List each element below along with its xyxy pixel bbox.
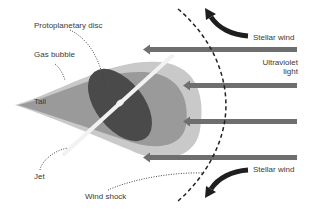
leader-jet (40, 148, 68, 170)
label-wind-shock: Wind shock (85, 192, 126, 201)
stellar-wind-bottom-arrow-icon (211, 170, 248, 189)
label-protoplanetary-disc: Protoplanetary disc (34, 21, 102, 30)
leader-wind-shock (108, 173, 202, 190)
label-ultraviolet: Ultraviolet light (258, 58, 298, 76)
diagram-canvas (0, 0, 313, 213)
label-stellar-wind-top: Stellar wind (253, 33, 294, 42)
label-ultraviolet-line2: light (283, 67, 298, 76)
label-stellar-wind-bottom: Stellar wind (253, 165, 294, 174)
stellar-wind-top-arrow-icon (211, 17, 248, 36)
label-gas-bubble: Gas bubble (34, 50, 75, 59)
label-jet: Jet (34, 172, 45, 181)
label-tail: Tail (34, 97, 46, 106)
label-ultraviolet-line1: Ultraviolet (262, 58, 298, 67)
leader-gas-bubble (55, 64, 65, 80)
